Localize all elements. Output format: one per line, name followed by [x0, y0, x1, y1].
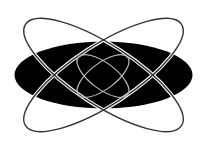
atom-emblem-graphic	[0, 0, 209, 149]
core-ellipse	[15, 42, 193, 109]
atom-emblem	[0, 0, 209, 149]
